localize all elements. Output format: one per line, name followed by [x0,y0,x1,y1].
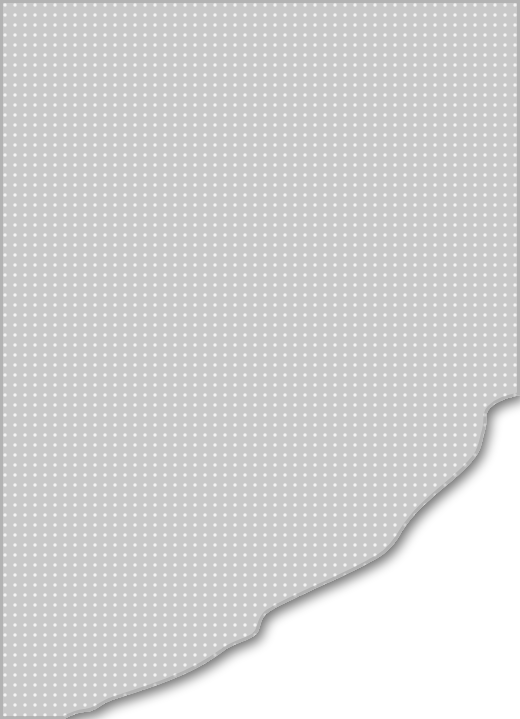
torn-paper-illustration [0,0,520,719]
torn-paper-scene: Torn sheet of gray polka-dot paper revea… [0,0,520,719]
